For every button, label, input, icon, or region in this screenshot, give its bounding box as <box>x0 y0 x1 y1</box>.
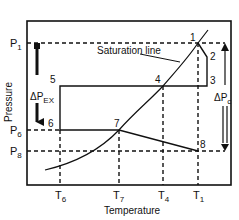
delta-p-c-label: ΔPc <box>214 92 231 106</box>
delta-ex-arrow-tail <box>34 43 40 49</box>
delta-p-ex-label: ΔPEX <box>30 91 55 105</box>
x-tick-t6: T6 <box>55 189 67 204</box>
saturation-line-label: Saturation line <box>97 45 161 56</box>
point-label-7: 7 <box>114 118 120 129</box>
pressure-temperature-diagram: P1 P6 P8 T6 T7 T4 T1 Temperature Pressur… <box>0 0 239 220</box>
y-axis-title: Pressure <box>3 82 14 122</box>
point-label-1: 1 <box>190 32 196 43</box>
point-label-6: 6 <box>48 118 54 129</box>
x-tick-t1: T1 <box>193 189 205 204</box>
point-label-3: 3 <box>210 75 216 86</box>
point-label-5: 5 <box>50 74 56 85</box>
delta-c-arrow-head-up <box>221 43 229 51</box>
x-tick-t4: T4 <box>158 189 170 204</box>
point-label-2: 2 <box>210 51 216 62</box>
cycle-path <box>60 43 207 151</box>
reference-lines <box>27 43 225 185</box>
x-axis-title: Temperature <box>104 205 161 216</box>
y-tick-p1: P1 <box>10 37 22 52</box>
y-tick-p8: P8 <box>10 145 22 160</box>
delta-c-arrow-head-down <box>221 144 229 151</box>
point-label-4: 4 <box>155 74 161 85</box>
x-tick-t7: T7 <box>113 189 125 204</box>
y-tick-p6: P6 <box>10 124 22 139</box>
point-label-8: 8 <box>200 139 206 150</box>
